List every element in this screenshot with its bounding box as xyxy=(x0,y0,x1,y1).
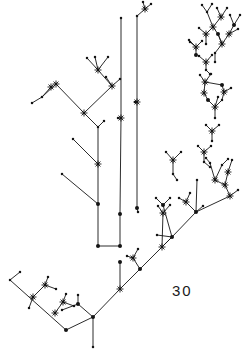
tree-node-small xyxy=(230,87,233,90)
tree-edge xyxy=(162,213,163,247)
tree-node-small xyxy=(126,255,129,258)
tree-node-small xyxy=(214,61,217,64)
tree-node-small xyxy=(211,3,214,6)
tree-node-small xyxy=(41,96,44,99)
tree-node-small xyxy=(237,28,240,31)
tree-node-large xyxy=(118,260,122,264)
tree-node-small xyxy=(169,197,172,200)
tree-node-small xyxy=(19,271,22,274)
tree-node-star xyxy=(203,31,209,37)
tree-node-large xyxy=(96,244,100,248)
tree-node-star xyxy=(142,6,148,12)
tree-node-small xyxy=(155,197,158,200)
tree-node-small xyxy=(92,346,95,349)
tree-node-small xyxy=(61,309,64,312)
tree-node-star xyxy=(219,41,225,47)
tree-node-small xyxy=(120,17,123,20)
tree-edge xyxy=(217,8,221,17)
tree-edge xyxy=(207,4,212,12)
tree-node-large xyxy=(161,203,165,207)
tree-node-small xyxy=(176,179,179,182)
tree-node-small xyxy=(209,73,212,76)
tree-node-large xyxy=(194,53,198,57)
phylogenetic-tree-svg xyxy=(0,0,242,352)
tree-node-small xyxy=(103,120,106,123)
tree-node-star xyxy=(95,67,101,73)
tree-node-small xyxy=(61,173,64,176)
tree-edge xyxy=(215,165,222,180)
tree-node-star xyxy=(210,24,216,30)
tree-node-star xyxy=(221,89,227,95)
tree-node-star xyxy=(170,157,176,163)
tree-node-small xyxy=(107,56,110,59)
tree-node-star xyxy=(130,255,136,261)
tree-node-star xyxy=(193,44,199,50)
tree-node-star xyxy=(117,286,123,292)
tree-node-small xyxy=(157,205,160,208)
tree-node-small xyxy=(237,189,240,192)
tree-node-large xyxy=(138,267,142,271)
tree-node-large xyxy=(64,328,68,332)
tree-node-small xyxy=(134,101,137,104)
tree-node-small xyxy=(218,124,221,127)
tree-node-small xyxy=(136,15,139,18)
tree-node-small xyxy=(105,76,108,79)
tree-edge xyxy=(196,196,230,212)
tree-node-small xyxy=(31,102,34,105)
tree-node-star xyxy=(225,169,231,175)
tree-edge xyxy=(202,5,207,12)
tree-node-small xyxy=(216,7,219,10)
tree-node-large xyxy=(216,32,220,36)
tree-node-small xyxy=(201,4,204,7)
tree-node-small xyxy=(209,162,212,165)
tree-node-small xyxy=(217,96,220,99)
tree-edge xyxy=(84,86,112,113)
tree-node-small xyxy=(226,7,229,10)
tree-node-small xyxy=(205,43,208,46)
tree-node-star xyxy=(218,14,224,20)
tree-node-small xyxy=(210,145,213,148)
tree-node-small xyxy=(28,307,31,310)
tree-edge xyxy=(157,235,172,237)
tree-node-small xyxy=(198,55,201,58)
tree-node-small xyxy=(239,14,242,17)
tree-node-small xyxy=(201,40,204,43)
tree-node-small xyxy=(117,117,120,120)
tree-node-star xyxy=(222,182,228,188)
tree-node-star xyxy=(183,199,189,205)
tree-node-small xyxy=(211,140,214,143)
tree-node-small xyxy=(55,288,58,291)
tree-node-small xyxy=(73,305,76,308)
tree-node-small xyxy=(189,192,192,195)
tree-node-large xyxy=(232,23,236,27)
tree-nodes-group xyxy=(9,1,242,349)
tree-node-star xyxy=(212,177,218,183)
tree-node-star xyxy=(52,310,58,316)
tree-node-star xyxy=(227,193,233,199)
tree-node-small xyxy=(178,197,181,200)
tree-node-small xyxy=(206,11,209,14)
tree-node-small xyxy=(205,69,208,72)
tree-node-star xyxy=(60,299,66,305)
tree-node-small xyxy=(165,151,168,154)
tree-node-large xyxy=(194,210,198,214)
tree-diagram-figure: 30 xyxy=(0,0,242,352)
tree-edge xyxy=(207,12,213,27)
tree-node-small xyxy=(227,158,230,161)
tree-node-small xyxy=(205,124,208,127)
tree-node-small xyxy=(119,78,122,81)
tree-node-star xyxy=(201,149,207,155)
tree-node-small xyxy=(231,159,234,162)
tree-node-small xyxy=(150,3,153,6)
tree-edge xyxy=(78,304,93,317)
tree-edge xyxy=(186,193,190,202)
tree-node-small xyxy=(202,205,205,208)
tree-node-small xyxy=(169,204,172,207)
tree-node-large xyxy=(118,212,122,216)
tree-node-star xyxy=(201,90,207,96)
tree-edge xyxy=(222,159,228,165)
tree-edge xyxy=(56,84,84,113)
tree-edge xyxy=(172,212,196,237)
tree-node-small xyxy=(229,14,232,17)
figure-number-label: 30 xyxy=(172,282,193,299)
